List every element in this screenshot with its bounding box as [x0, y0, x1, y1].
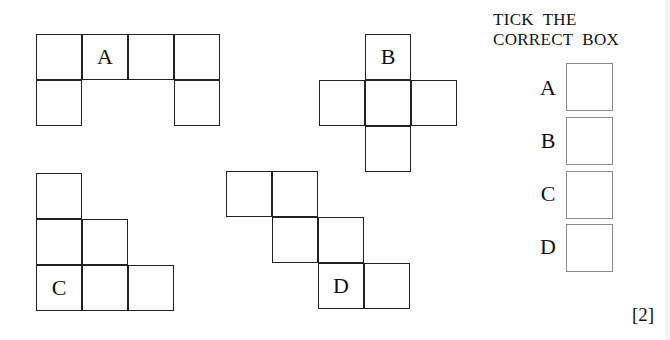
net-a-square — [174, 34, 220, 80]
net-d-square — [364, 263, 410, 309]
net-c-label: C — [52, 275, 67, 301]
net-b-square — [365, 80, 411, 126]
net-c-square — [128, 265, 174, 311]
net-d-square-labelled: D — [318, 263, 364, 309]
net-c-square-labelled: C — [36, 265, 82, 311]
net-a-square — [36, 80, 82, 126]
option-label-d: D — [536, 234, 560, 260]
net-d-label: D — [333, 273, 349, 299]
instruction-line-1: TICK THE — [493, 10, 619, 30]
tick-box-b[interactable] — [566, 117, 613, 165]
net-c-square — [82, 265, 128, 311]
net-c-square — [82, 219, 128, 265]
net-d-square — [272, 217, 318, 263]
tick-box-c[interactable] — [566, 171, 613, 219]
option-label-a: A — [536, 75, 560, 101]
net-c-square — [36, 219, 82, 265]
net-a-label: A — [97, 44, 113, 70]
net-b-square — [411, 80, 457, 126]
net-b-square — [319, 80, 365, 126]
page-edge — [665, 0, 670, 340]
net-c-square — [36, 173, 82, 219]
tick-box-a[interactable] — [566, 63, 613, 111]
option-label-b: B — [536, 128, 560, 154]
net-d-square — [272, 171, 318, 217]
net-b-square-labelled: B — [365, 34, 411, 80]
net-a-square — [36, 34, 82, 80]
instruction: TICK THE CORRECT BOX — [493, 10, 619, 50]
net-b-label: B — [381, 44, 396, 70]
marks-indicator: [2] — [632, 304, 654, 326]
instruction-line-2: CORRECT BOX — [493, 30, 619, 50]
net-b-square — [365, 126, 411, 172]
tick-box-d[interactable] — [566, 224, 613, 272]
net-a-square — [174, 80, 220, 126]
option-label-c: C — [536, 181, 560, 207]
net-a-square-labelled: A — [82, 34, 128, 80]
net-d-square — [318, 217, 364, 263]
net-a-square — [128, 34, 174, 80]
net-d-square — [226, 171, 272, 217]
